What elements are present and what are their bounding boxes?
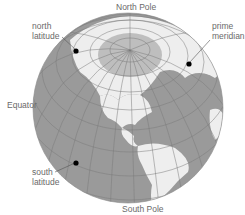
south-latitude-marker bbox=[73, 160, 78, 165]
equator-label: Equator bbox=[7, 101, 37, 111]
prime-meridian-marker bbox=[186, 61, 191, 66]
north-latitude-marker bbox=[73, 48, 78, 53]
north-latitude-label: north latitude bbox=[32, 22, 59, 41]
south-pole-label: South Pole bbox=[122, 205, 164, 215]
south-latitude-line2: latitude bbox=[32, 178, 59, 188]
south-latitude-label: south latitude bbox=[32, 168, 59, 187]
prime-meridian-line2: meridian bbox=[212, 32, 245, 42]
north-pole-label: North Pole bbox=[116, 3, 156, 13]
prime-meridian-label: prime meridian bbox=[212, 22, 245, 41]
north-latitude-line2: latitude bbox=[32, 32, 59, 42]
